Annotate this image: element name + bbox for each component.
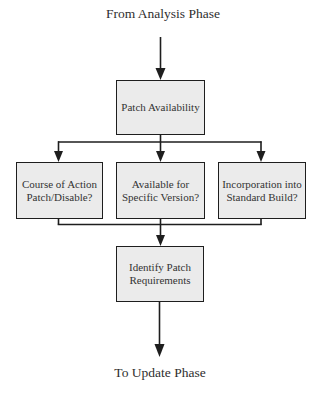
from-analysis-phase-label: From Analysis Phase (0, 6, 326, 22)
incorporation-build-label-line2: Standard Build? (226, 191, 297, 204)
identify-requirements-node: Identify Patch Requirements (116, 246, 204, 302)
patch-availability-label: Patch Availability (121, 101, 199, 114)
patch-availability-node: Patch Availability (116, 80, 205, 135)
connector-split (54, 134, 266, 162)
course-of-action-label-line2: Patch/Disable? (27, 191, 93, 204)
available-for-version-node: Available for Specific Version? (116, 162, 205, 219)
available-for-version-label-line1: Available for (132, 178, 190, 191)
arrow-requirements-to-update (155, 301, 165, 357)
identify-requirements-label-line1: Identify Patch (129, 261, 191, 274)
to-update-phase-label: To Update Phase (0, 365, 320, 381)
connector-merge (58, 218, 262, 246)
identify-requirements-label-line2: Requirements (129, 274, 190, 287)
incorporation-build-node: Incorporation into Standard Build? (218, 162, 306, 219)
arrow-analysis-to-availability (156, 37, 166, 80)
course-of-action-label-line1: Course of Action (22, 178, 97, 191)
course-of-action-node: Course of Action Patch/Disable? (16, 162, 103, 219)
incorporation-build-label-line1: Incorporation into (222, 178, 302, 191)
flowchart-diagram: From Analysis Phase Patch Availability C… (0, 0, 326, 395)
available-for-version-label-line2: Specific Version? (122, 191, 199, 204)
